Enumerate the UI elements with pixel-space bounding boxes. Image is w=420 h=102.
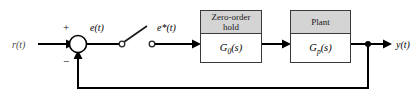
summing-junction xyxy=(70,36,87,53)
block-zero-order-hold[interactable]: Zero-order hold G0(s) xyxy=(201,11,262,63)
wire-zoh-to-plant xyxy=(262,40,291,49)
summing-junction-minus-sign: − xyxy=(63,55,69,67)
zoh-tf-arg: (s) xyxy=(231,42,243,54)
wire-plant-to-output xyxy=(350,40,392,49)
diagram-canvas: + − Zero-order hold G0(s) Plant Gp(s) r(… xyxy=(0,0,420,102)
plant-title-line-1: Plant xyxy=(311,17,330,27)
zoh-title-line-1: Zero-order xyxy=(212,12,251,22)
label-error-signal: e(t) xyxy=(90,22,105,34)
label-output-signal: y(t) xyxy=(395,39,411,51)
label-sampled-error-signal: e*(t) xyxy=(157,22,177,34)
label-reference-input: r(t) xyxy=(12,39,26,51)
control-system-block-diagram: + − Zero-order hold G0(s) Plant Gp(s) r(… xyxy=(0,0,420,102)
zoh-title-line-2: hold xyxy=(223,22,240,32)
sampler-contact-right xyxy=(149,41,155,47)
summing-junction-plus-sign: + xyxy=(63,21,69,33)
plant-tf-arg: (s) xyxy=(321,42,333,54)
wire-sampled-error-to-zoh xyxy=(155,40,201,49)
block-plant[interactable]: Plant Gp(s) xyxy=(291,11,351,63)
sampler-contact-left xyxy=(119,41,125,47)
sampler-switch[interactable] xyxy=(119,26,155,47)
